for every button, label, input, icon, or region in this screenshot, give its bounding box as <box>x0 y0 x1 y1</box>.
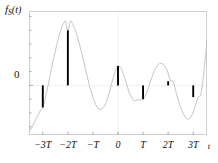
y-axis-label-argument: (t) <box>12 4 21 15</box>
x-axis-name: t <box>208 142 210 151</box>
x-tick-label-4: T <box>140 140 146 150</box>
plot-canvas <box>29 11 207 135</box>
sampled-impulse-stems <box>43 30 193 107</box>
y-axis-label: fS(t) <box>5 4 21 18</box>
y-tick-label-zero: 0 <box>14 69 20 80</box>
x-tick-label-1: −2T <box>59 140 76 150</box>
x-tick-label-5: 2T <box>163 140 174 150</box>
plot-area <box>29 11 207 135</box>
x-tick-label-3: 0 <box>116 140 121 150</box>
figure-sampled-signal-plot: fS(t) 0 −3T−2T−T0T2T3T t <box>0 0 218 163</box>
x-tick-label-0: −3T <box>34 140 51 150</box>
x-tick-label-2: −T <box>87 140 99 150</box>
x-tick-label-6: 3T <box>188 140 199 150</box>
